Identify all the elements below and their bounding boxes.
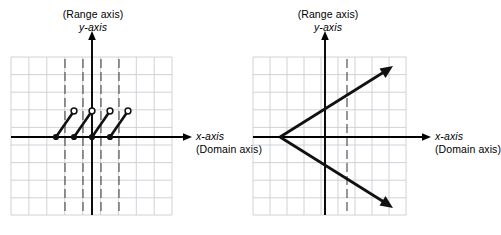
step-function-plot bbox=[0, 0, 243, 235]
grid-lines bbox=[253, 57, 406, 215]
right-x-axis-label: x-axis bbox=[435, 130, 501, 143]
right-domain-axis-label: (Domain axis) bbox=[435, 143, 501, 156]
sideways-parabola-plot bbox=[243, 0, 487, 235]
right-range-axis-label: (Range axis) bbox=[291, 8, 365, 21]
axis-lines bbox=[253, 36, 425, 215]
left-y-axis-label: y-axis bbox=[56, 21, 130, 34]
right-y-axis-label: y-axis bbox=[291, 21, 365, 34]
panel-step-function: (Range axis) y-axis x-axis (Domain axis) bbox=[0, 0, 243, 235]
x-axis-arrowhead bbox=[422, 133, 431, 141]
x-axis-arrowhead bbox=[183, 133, 192, 141]
right-x-axis-label-group: x-axis (Domain axis) bbox=[435, 130, 501, 156]
lower-ray bbox=[280, 137, 384, 202]
panel-sideways-parabola: (Range axis) y-axis x-axis (Domain axis) bbox=[243, 0, 487, 235]
right-y-axis-label-group: (Range axis) y-axis bbox=[291, 8, 365, 34]
left-range-axis-label: (Range axis) bbox=[56, 8, 130, 21]
left-y-axis-label-group: (Range axis) y-axis bbox=[56, 8, 130, 34]
